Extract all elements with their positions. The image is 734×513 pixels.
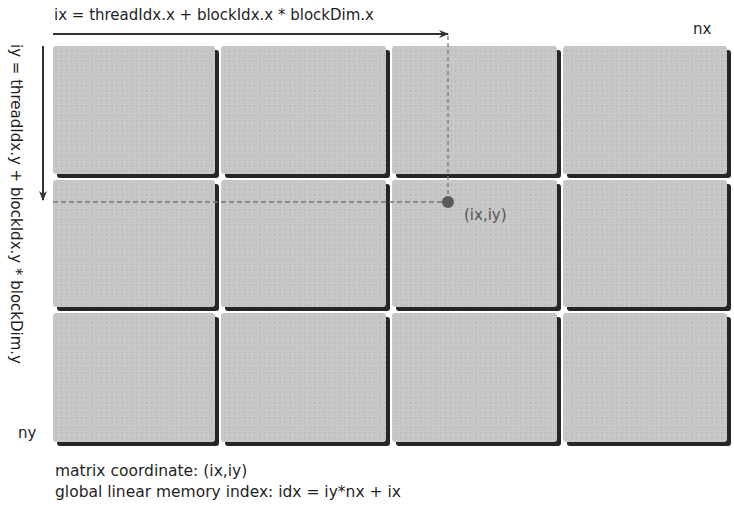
caption-linear-index: global linear memory index: idx = iy*nx … bbox=[55, 482, 401, 502]
caption-matrix-coordinate: matrix coordinate: (ix,iy) bbox=[55, 461, 247, 481]
point-coordinate-label: (ix,iy) bbox=[464, 206, 507, 224]
point-marker-icon bbox=[442, 196, 454, 208]
thread-index-diagram: ix = threadIdx.x + blockIdx.x * blockDim… bbox=[0, 0, 734, 513]
ny-label: ny bbox=[18, 424, 36, 442]
y-formula-label: iy = threadIdx.y + blockIdx.y * blockDim… bbox=[7, 44, 25, 364]
x-formula-label: ix = threadIdx.x + blockIdx.x * blockDim… bbox=[54, 6, 374, 24]
nx-label: nx bbox=[693, 20, 711, 38]
guides-overlay bbox=[0, 0, 734, 513]
